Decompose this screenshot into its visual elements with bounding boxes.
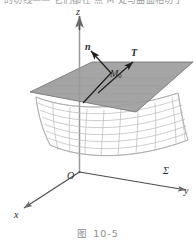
tangent-plane: [30, 62, 196, 112]
axis-x: [24, 172, 80, 208]
figure-caption: 图10-5: [0, 226, 196, 240]
point-m0-marker: [110, 72, 112, 74]
axis-y: [80, 172, 187, 190]
caption-number: 10-5: [93, 228, 119, 239]
caption-figure-word: 图: [77, 228, 88, 239]
figure-page: 的切线—— 它们都在 点 M 处与曲面相切于: [0, 0, 196, 246]
origin-marker: [79, 171, 81, 173]
diagram-canvas: [0, 0, 196, 222]
